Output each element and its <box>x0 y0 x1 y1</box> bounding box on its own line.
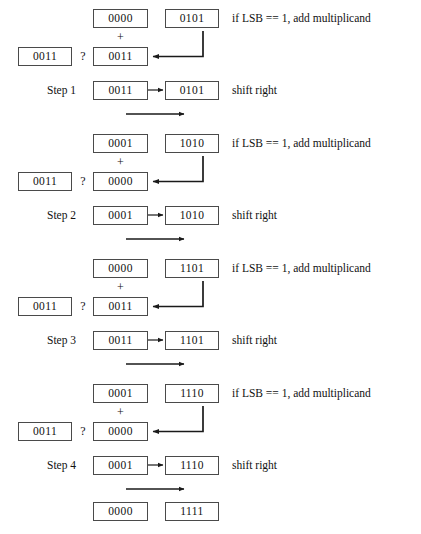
plus-sign-block-3: + <box>93 281 148 293</box>
multiplication-trace-diagram: 0000 0101 if LSB == 1, add multiplicand … <box>0 0 421 534</box>
sum-register-block-1[interactable]: 0011 <box>93 47 148 66</box>
multiplier-register-block-2[interactable]: 1010 <box>165 134 219 153</box>
step-multiplier-register-block-2[interactable]: 1010 <box>165 206 219 225</box>
note-add-block-1: if LSB == 1, add multiplicand <box>232 11 371 25</box>
note-shift-block-3: shift right <box>232 333 277 347</box>
step-label-block-4: Step 4 <box>47 458 76 472</box>
feedback-arrow-block-1 <box>153 31 203 57</box>
note-shift-block-4: shift right <box>232 458 277 472</box>
note-add-block-2: if LSB == 1, add multiplicand <box>232 136 371 150</box>
note-add-block-3: if LSB == 1, add multiplicand <box>232 261 371 275</box>
product-register-block-2[interactable]: 0001 <box>93 134 148 153</box>
sum-register-block-2[interactable]: 0000 <box>93 172 148 191</box>
plus-sign-block-4: + <box>93 406 148 418</box>
final-multiplier-register[interactable]: 1111 <box>165 502 219 521</box>
feedback-arrow-block-4 <box>153 406 203 432</box>
product-register-block-4[interactable]: 0001 <box>93 384 148 403</box>
question-mark-block-4: ? <box>76 424 90 438</box>
plus-sign-block-1: + <box>93 31 148 43</box>
multiplicand-register-block-2[interactable]: 0011 <box>18 172 72 191</box>
multiplier-register-block-4[interactable]: 1110 <box>165 384 219 403</box>
plus-sign-block-2: + <box>93 156 148 168</box>
multiplicand-register-block-4[interactable]: 0011 <box>18 422 72 441</box>
multiplier-register-block-1[interactable]: 0101 <box>165 9 219 28</box>
step-product-register-block-2[interactable]: 0001 <box>93 206 148 225</box>
step-product-register-block-1[interactable]: 0011 <box>93 81 148 100</box>
product-register-block-1[interactable]: 0000 <box>93 9 148 28</box>
step-product-register-block-3[interactable]: 0011 <box>93 331 148 350</box>
step-product-register-block-4[interactable]: 0001 <box>93 456 148 475</box>
step-label-block-3: Step 3 <box>47 333 76 347</box>
sum-register-block-4[interactable]: 0000 <box>93 422 148 441</box>
step-multiplier-register-block-1[interactable]: 0101 <box>165 81 219 100</box>
question-mark-block-2: ? <box>76 174 90 188</box>
sum-register-block-3[interactable]: 0011 <box>93 297 148 316</box>
multiplicand-register-block-3[interactable]: 0011 <box>18 297 72 316</box>
product-register-block-3[interactable]: 0000 <box>93 259 148 278</box>
feedback-arrow-block-2 <box>153 156 203 182</box>
note-shift-block-1: shift right <box>232 83 277 97</box>
multiplicand-register-block-1[interactable]: 0011 <box>18 47 72 66</box>
feedback-arrow-block-3 <box>153 281 203 307</box>
step-label-block-2: Step 2 <box>47 208 76 222</box>
step-label-block-1: Step 1 <box>47 83 76 97</box>
multiplier-register-block-3[interactable]: 1101 <box>165 259 219 278</box>
final-product-register[interactable]: 0000 <box>93 502 148 521</box>
step-multiplier-register-block-3[interactable]: 1101 <box>165 331 219 350</box>
note-shift-block-2: shift right <box>232 208 277 222</box>
step-multiplier-register-block-4[interactable]: 1110 <box>165 456 219 475</box>
question-mark-block-3: ? <box>76 299 90 313</box>
question-mark-block-1: ? <box>76 49 90 63</box>
note-add-block-4: if LSB == 1, add multiplicand <box>232 386 371 400</box>
